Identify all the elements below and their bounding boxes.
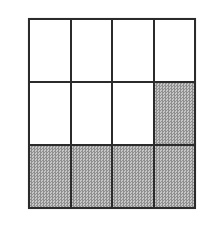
grid-cell-r1c3-unshaded [113, 20, 153, 81]
grid-cell-r3c3-shaded [113, 146, 153, 207]
grid-cell-r2c1-unshaded [30, 83, 70, 144]
grid-cell-r3c2-shaded [72, 146, 112, 207]
fraction-diagram [28, 18, 196, 209]
grid-cell-r2c2-unshaded [72, 83, 112, 144]
grid-cell-r2c3-unshaded [113, 83, 153, 144]
grid-cell-r2c4-shaded [155, 83, 195, 144]
grid-cell-r1c2-unshaded [72, 20, 112, 81]
grid-cell-r3c4-shaded [155, 146, 195, 207]
grid-cell-r3c1-shaded [30, 146, 70, 207]
grid-cell-r1c1-unshaded [30, 20, 70, 81]
grid-cell-r1c4-unshaded [155, 20, 195, 81]
fraction-grid [28, 18, 196, 209]
